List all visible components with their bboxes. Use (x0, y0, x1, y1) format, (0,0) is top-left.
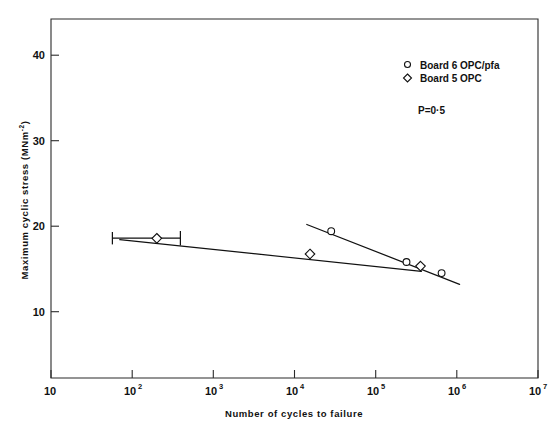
legend-label-board5: Board 5 OPC (420, 73, 482, 84)
y-axis-ticks (51, 55, 59, 312)
x-tick-label: 10 (44, 385, 56, 397)
x-tick-exponent: 3 (219, 382, 223, 391)
y-axis-tick-labels: 40 30 20 10 (33, 49, 45, 318)
y-axis-title: Maximum cyclic stress (MNm-2) (18, 121, 30, 280)
data-point-marker (152, 234, 162, 244)
x-tick-label: 10 (124, 385, 136, 397)
chart-figure: 40 30 20 10 10 10 2 10 3 10 4 10 5 1 (0, 0, 553, 431)
y-tick-label: 30 (33, 135, 45, 147)
y-axis-title-exponent: -2 (18, 124, 25, 131)
series-board5-line (120, 240, 422, 272)
data-point-marker (416, 261, 426, 271)
legend-diamond-icon (404, 74, 412, 82)
x-axis-ticks (51, 370, 538, 378)
data-point-marker (305, 249, 315, 259)
sn-curve-chart: 40 30 20 10 10 10 2 10 3 10 4 10 5 1 (0, 0, 553, 431)
y-tick-label: 10 (33, 306, 45, 318)
annotation-probability-text: P=0·5 (418, 105, 445, 116)
x-tick-label: 10 (367, 385, 379, 397)
series-board5-markers (152, 234, 425, 271)
x-axis-title: Number of cycles to failure (225, 408, 363, 419)
x-tick-label: 10 (205, 385, 217, 397)
x-tick-exponent: 5 (381, 382, 385, 391)
x-tick-label: 10 (448, 385, 460, 397)
annotation-probability: P=0·5 (418, 105, 445, 116)
x-tick-exponent: 6 (462, 382, 466, 391)
x-tick-exponent: 4 (300, 382, 305, 391)
x-tick-label: 10 (286, 385, 298, 397)
data-point-marker (328, 228, 335, 235)
y-axis-title-close: ) (19, 121, 30, 125)
y-tick-label: 20 (33, 220, 45, 232)
x-tick-exponent: 7 (543, 382, 547, 391)
x-tick-label: 10 (529, 385, 541, 397)
series-board6-markers (328, 228, 445, 277)
data-point-marker (438, 270, 445, 277)
svg-text:Maximum cyclic stress (MNm-2): Maximum cyclic stress (MNm-2) (18, 121, 30, 280)
legend-label-board6: Board 6 OPC/pfa (420, 60, 500, 71)
data-point-marker (403, 259, 410, 266)
legend-circle-icon (405, 62, 411, 68)
chart-legend: Board 6 OPC/pfa Board 5 OPC (404, 60, 500, 84)
x-axis-tick-labels: 10 10 2 10 3 10 4 10 5 10 6 10 7 (44, 382, 547, 397)
y-tick-label: 40 (33, 49, 45, 61)
series-board5-error-bar (112, 231, 180, 245)
x-tick-exponent: 2 (138, 382, 142, 391)
x-axis-title-text: Number of cycles to failure (225, 408, 363, 419)
y-axis-title-text: Maximum cyclic stress (MNm (19, 131, 30, 279)
